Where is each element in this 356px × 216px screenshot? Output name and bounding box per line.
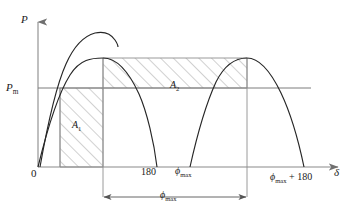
area-a1-label: A1 [72, 120, 81, 133]
pm-label: Pm [6, 82, 18, 96]
x-axis-label: δ [334, 167, 339, 178]
x-tick-phimax: ϕmax [175, 166, 192, 179]
y-axis-label: P [21, 14, 28, 25]
phimax-dimension-label: ϕmax [160, 190, 177, 203]
area-a2-label: A2 [170, 80, 179, 93]
area-a1-hatch [60, 88, 103, 167]
x-tick-phimax-plus-180: ϕmax + 180 [270, 172, 312, 185]
origin-label: 0 [31, 168, 37, 179]
x-tick-180: 180 [141, 167, 156, 177]
